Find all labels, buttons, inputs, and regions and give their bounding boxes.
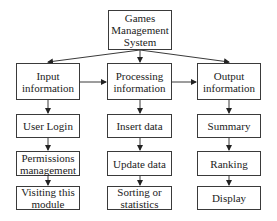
node-label: Summary <box>208 120 251 132</box>
node-label: Ranking <box>210 158 247 170</box>
node-label: Output <box>203 70 255 82</box>
node-visiting-this-module: Visiting this module <box>16 186 80 210</box>
node-label: information <box>114 82 166 94</box>
node-label: Update data <box>113 158 166 170</box>
edge-root-output <box>140 50 229 62</box>
node-ranking: Ranking <box>197 151 261 176</box>
node-label: statistics <box>117 198 161 210</box>
node-label: management <box>20 164 76 176</box>
node-label: Management <box>111 24 168 36</box>
node-label: information <box>22 82 74 94</box>
node-label: Sorting or <box>117 186 161 198</box>
node-display: Display <box>197 186 261 210</box>
node-label: System <box>111 36 168 48</box>
node-label: User Login <box>23 120 73 132</box>
node-label: Permissions <box>20 152 76 164</box>
node-label: Processing <box>114 70 166 82</box>
node-label: Input <box>22 70 74 82</box>
edge-root-input <box>48 50 140 62</box>
node-label: Display <box>212 192 246 204</box>
node-update-data: Update data <box>107 151 172 176</box>
node-label: Visiting this <box>21 186 74 198</box>
node-output-information: Output information <box>197 63 261 100</box>
node-label: information <box>203 82 255 94</box>
node-sorting-or-statistics: Sorting or statistics <box>107 186 172 210</box>
node-processing-information: Processing information <box>107 63 172 100</box>
node-insert-data: Insert data <box>107 114 172 138</box>
node-input-information: Input information <box>16 63 80 100</box>
node-permissions-management: Permissions management <box>16 151 80 176</box>
node-games-management-system: Games Management System <box>108 10 172 50</box>
node-user-login: User Login <box>16 114 80 138</box>
node-label: Games <box>111 12 168 24</box>
node-summary: Summary <box>197 114 261 138</box>
node-label: module <box>21 198 74 210</box>
node-label: Insert data <box>116 120 162 132</box>
